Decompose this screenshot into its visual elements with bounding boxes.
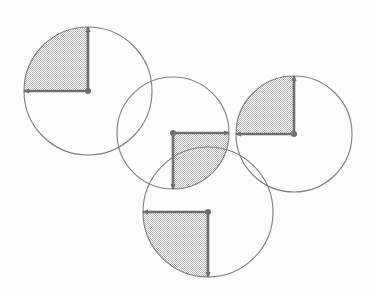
shaded-quadrant-circle-3 bbox=[236, 76, 294, 134]
shaded-quadrant-circle-1 bbox=[24, 27, 88, 91]
circle-group-circle-2 bbox=[117, 77, 229, 189]
circle-group-circle-3 bbox=[236, 76, 352, 192]
center-dot-circle-2 bbox=[170, 130, 176, 136]
center-dot-circle-3 bbox=[291, 131, 297, 137]
shaded-quadrant-circle-4 bbox=[143, 212, 208, 277]
circle-group-container bbox=[24, 27, 352, 277]
circle-group-circle-1 bbox=[24, 27, 152, 155]
center-dot-circle-4 bbox=[205, 209, 211, 215]
figure-canvas bbox=[0, 0, 375, 294]
shaded-quadrant-circle-2 bbox=[173, 133, 229, 189]
center-dot-circle-1 bbox=[85, 88, 91, 94]
figure-svg bbox=[0, 0, 375, 294]
